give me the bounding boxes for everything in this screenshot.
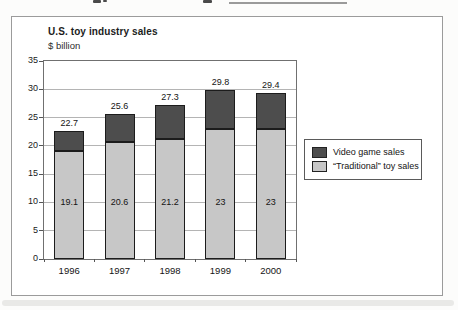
x-axis-label: 1996 [47,265,91,276]
scan-shadow [2,300,454,306]
bar-segment [205,129,235,259]
y-tick [39,259,43,260]
y-axis-label: 35 [16,55,38,65]
y-axis-label: 10 [16,196,38,206]
bar-segment [205,90,235,129]
legend-label: “Traditional” toy sales [333,161,419,171]
cropped-underline-remnant [229,2,347,4]
cropped-text-remnant [93,0,101,3]
y-tick [39,61,43,62]
y-axis-label: 15 [16,168,38,178]
y-axis-label: 30 [16,83,38,93]
x-tick [94,259,95,262]
chart-title: U.S. toy industry sales [48,26,158,37]
bar-inner-label: 19.1 [49,197,89,207]
x-axis-label: 1999 [198,265,242,276]
chart-subtitle: $ billion [48,40,80,51]
bar-inner-label: 23 [200,197,240,207]
x-axis-label: 2000 [249,265,293,276]
y-tick [39,89,43,90]
y-tick [39,117,43,118]
bar-total-label: 29.4 [251,80,291,90]
legend-swatch [312,147,327,158]
chart-frame: U.S. toy industry sales $ billion 22.719… [11,16,443,296]
bar-total-label: 22.7 [49,118,89,128]
bar-inner-label: 21.2 [150,197,190,207]
x-tick [44,259,45,262]
cropped-text-remnant [203,0,212,3]
bar-total-label: 29.8 [200,77,240,87]
x-axis-label: 1998 [148,265,192,276]
y-tick [39,230,43,231]
y-tick [39,145,43,146]
legend-row: “Traditional” toy sales [312,159,416,173]
bar-segment [105,114,135,142]
bar-segment [54,131,84,151]
bar-inner-label: 20.6 [100,197,140,207]
legend-rows: Video game sales“Traditional” toy sales [312,145,416,173]
x-tick [195,259,196,262]
bar-total-label: 27.3 [150,92,190,102]
legend-swatch [312,161,327,172]
cropped-text-remnant [103,0,107,2]
y-axis-label: 5 [16,225,38,235]
y-axis-label: 0 [16,253,38,263]
x-axis-label: 1997 [98,265,142,276]
legend-label: Video game sales [333,147,404,157]
x-tick [296,259,297,262]
y-tick [39,174,43,175]
y-axis-label: 25 [16,112,38,122]
x-tick [245,259,246,262]
bar-total-label: 25.6 [100,101,140,111]
bar-segment [256,129,286,259]
y-tick [39,202,43,203]
bar-segment [256,93,286,129]
x-tick [144,259,145,262]
bar-inner-label: 23 [251,197,291,207]
bar-segment [155,105,185,139]
legend-row: Video game sales [312,145,416,159]
legend: Video game sales“Traditional” toy sales [304,139,422,180]
plot-area: 22.719.1199625.620.6199727.321.2199829.8… [43,60,297,260]
y-axis-label: 20 [16,140,38,150]
